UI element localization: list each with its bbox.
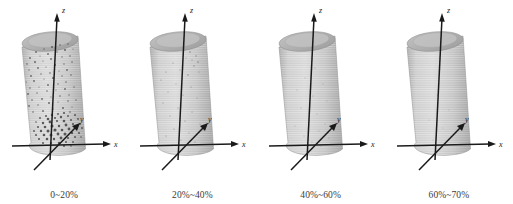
- panel-3-label: 40%~60%: [257, 190, 385, 200]
- y-axis-label: y: [207, 115, 212, 124]
- x-axis-arrow: [488, 141, 496, 147]
- z-axis-label: z: [189, 6, 194, 15]
- y-axis-label: y: [79, 115, 84, 124]
- z-axis-arrow: [182, 13, 188, 22]
- z-axis-arrow: [439, 13, 445, 22]
- x-axis-arrow: [103, 141, 111, 147]
- panel-3: z x y 40%~60%: [257, 0, 385, 204]
- z-axis-arrow: [54, 13, 60, 22]
- x-axis-label: x: [370, 140, 375, 149]
- panel-4-canvas: z x y: [385, 0, 513, 180]
- panel-4-label: 60%~70%: [385, 190, 513, 200]
- z-axis-arrow: [311, 13, 317, 22]
- z-axis-label: z: [61, 6, 66, 15]
- panel-4: z x y 60%~70%: [385, 0, 513, 204]
- x-axis-arrow: [360, 141, 368, 147]
- panel-1-canvas: z x y: [0, 0, 128, 180]
- x-axis-label: x: [241, 140, 246, 149]
- y-axis-label: y: [464, 115, 469, 124]
- y-axis-label: y: [336, 115, 341, 124]
- panel-2-label: 20%~40%: [128, 190, 256, 200]
- panel-1: z x y 0~20%: [0, 0, 128, 204]
- panel-2: z x y 20%~40%: [128, 0, 256, 204]
- z-axis-label: z: [318, 6, 323, 15]
- z-axis-label: z: [446, 6, 451, 15]
- x-axis-arrow: [231, 141, 239, 147]
- figure-container: z x y 0~20%: [0, 0, 513, 204]
- panel-row: z x y 0~20%: [0, 0, 513, 204]
- panel-1-label: 0~20%: [0, 190, 128, 200]
- panel-2-canvas: z x y: [128, 0, 256, 180]
- x-axis-label: x: [498, 140, 503, 149]
- x-axis-label: x: [113, 140, 118, 149]
- panel-3-canvas: z x y: [257, 0, 385, 180]
